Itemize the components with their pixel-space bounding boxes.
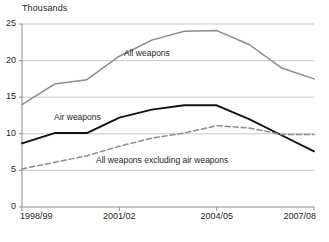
y-tick-label: 20 [0, 55, 16, 65]
x-tick-label: 2001/02 [99, 211, 139, 221]
series-label: Air weapons [54, 112, 101, 122]
x-tick-label: 1998/99 [20, 211, 53, 221]
y-tick-label: 25 [0, 18, 16, 28]
series-label: All weapons excluding air weapons [96, 155, 228, 165]
y-tick-label: 15 [0, 91, 16, 101]
chart-container: Thousands 0510152025 1998/992001/022004/… [0, 0, 329, 242]
y-tick-label: 5 [0, 164, 16, 174]
chart-plot [0, 0, 329, 242]
x-tick-label: 2004/05 [197, 211, 237, 221]
y-tick-label: 10 [0, 128, 16, 138]
y-tick-label: 0 [0, 201, 16, 211]
gridlines [22, 24, 314, 170]
x-tick-label: 2007/08 [283, 211, 316, 221]
x-tick-marks [22, 207, 314, 211]
series-line [22, 31, 314, 105]
series-label: All weapons [124, 48, 170, 58]
